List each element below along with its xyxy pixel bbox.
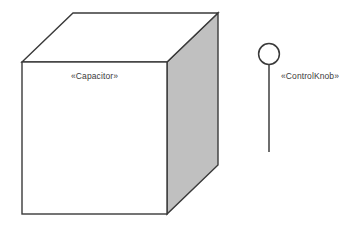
interface-ball-icon [259,44,280,65]
controlknob-interface-label: «ControlKnob» [281,71,339,81]
capacitor-node[interactable] [22,13,218,214]
controlknob-interface[interactable] [259,44,280,152]
uml-deployment-diagram [0,0,361,228]
node-front-face [22,62,167,214]
capacitor-node-label: «Capacitor» [22,71,167,81]
diagram-canvas: «Capacitor» «ControlKnob» [0,0,361,228]
